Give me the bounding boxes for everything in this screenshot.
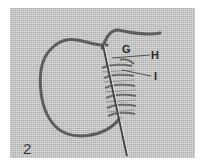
thread-tail — [102, 30, 160, 48]
embroidery-photo: G H I 2 — [10, 8, 195, 158]
leader-line-h — [112, 55, 150, 58]
figure-number: 2 — [23, 141, 31, 156]
stitch-illustration — [10, 8, 195, 158]
label-h: H — [151, 50, 159, 61]
label-g: G — [122, 44, 131, 55]
label-i: I — [154, 71, 157, 82]
